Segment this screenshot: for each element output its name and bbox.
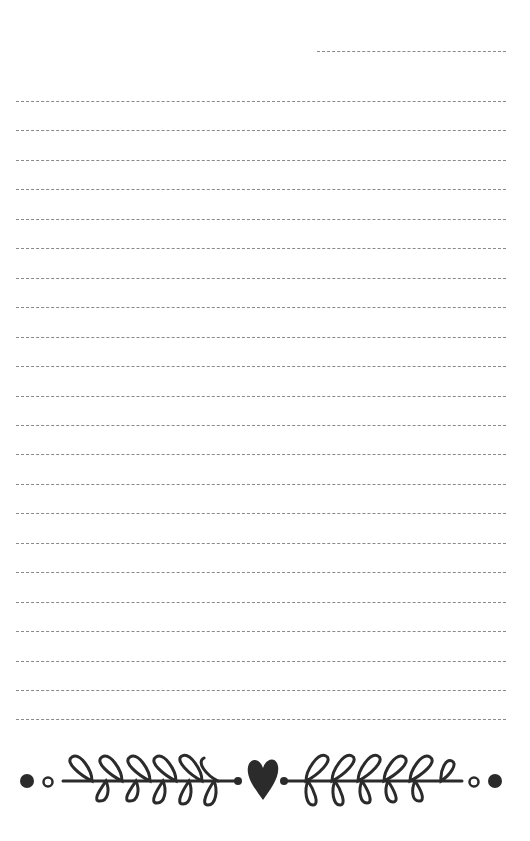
- writing-line[interactable]: [16, 160, 506, 161]
- writing-line[interactable]: [16, 278, 506, 279]
- writing-line[interactable]: [16, 101, 506, 102]
- writing-line[interactable]: [16, 631, 506, 632]
- laurel-heart-ornament: [0, 740, 530, 830]
- lined-page: [0, 0, 530, 841]
- writing-line[interactable]: [16, 425, 506, 426]
- ring-icon: [470, 778, 479, 787]
- writing-line[interactable]: [16, 543, 506, 544]
- writing-line[interactable]: [16, 337, 506, 338]
- writing-line[interactable]: [16, 396, 506, 397]
- writing-line[interactable]: [16, 484, 506, 485]
- ring-icon: [44, 778, 53, 787]
- writing-line[interactable]: [16, 219, 506, 220]
- header-line[interactable]: [317, 51, 506, 52]
- right-branch-icon: [284, 755, 462, 805]
- dot-icon: [488, 774, 502, 788]
- writing-line[interactable]: [16, 248, 506, 249]
- writing-line[interactable]: [16, 366, 506, 367]
- writing-line[interactable]: [16, 719, 506, 720]
- writing-line[interactable]: [16, 189, 506, 190]
- branch-end-dot-icon: [234, 777, 242, 785]
- writing-line[interactable]: [16, 130, 506, 131]
- writing-line[interactable]: [16, 454, 506, 455]
- heart-icon: [248, 759, 279, 800]
- writing-line[interactable]: [16, 661, 506, 662]
- left-branch-icon: [63, 755, 238, 805]
- writing-line[interactable]: [16, 513, 506, 514]
- dot-icon: [20, 774, 34, 788]
- writing-line[interactable]: [16, 602, 506, 603]
- writing-line[interactable]: [16, 572, 506, 573]
- writing-line[interactable]: [16, 307, 506, 308]
- writing-line[interactable]: [16, 690, 506, 691]
